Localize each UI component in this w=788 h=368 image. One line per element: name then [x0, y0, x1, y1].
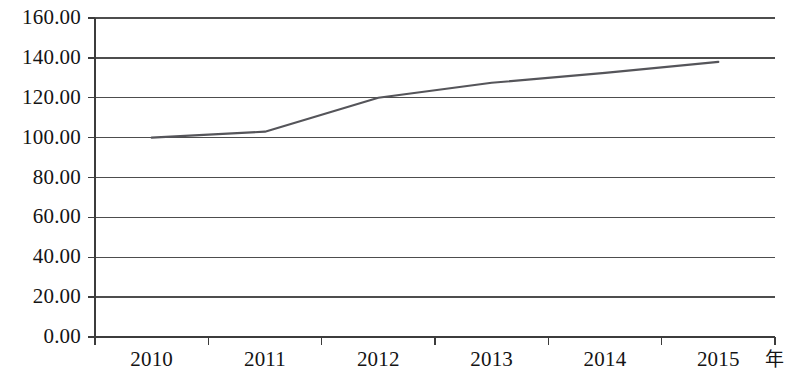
line-chart: 0.0020.0040.0060.0080.00100.00120.00140.… — [0, 0, 788, 368]
data-series-line — [152, 62, 719, 138]
y-axis-tick-label: 120.00 — [0, 87, 81, 108]
x-axis-tick-label: 2014 — [548, 349, 661, 368]
x-axis-tick-label: 2015 — [662, 349, 775, 368]
y-axis-tick-label: 40.00 — [0, 246, 81, 267]
y-axis-ticks-group — [88, 18, 95, 337]
y-axis-tick-label: 60.00 — [0, 206, 81, 227]
y-axis-tick-label: 20.00 — [0, 286, 81, 307]
y-axis-tick-label: 100.00 — [0, 127, 81, 148]
x-axis-unit-label: 年 — [765, 350, 784, 368]
y-axis-tick-label: 0.00 — [0, 326, 81, 347]
x-axis-tick-label: 2013 — [435, 349, 548, 368]
y-axis-tick-label: 160.00 — [0, 7, 81, 28]
y-axis-tick-label: 80.00 — [0, 167, 81, 188]
x-axis-tick-label: 2010 — [95, 349, 208, 368]
x-axis-ticks-group — [95, 337, 775, 345]
y-axis-tick-label: 140.00 — [0, 47, 81, 68]
data-series-group — [152, 62, 719, 138]
x-axis-tick-label: 2012 — [322, 349, 435, 368]
chart-canvas — [0, 0, 788, 368]
x-axis-tick-label: 2011 — [208, 349, 321, 368]
